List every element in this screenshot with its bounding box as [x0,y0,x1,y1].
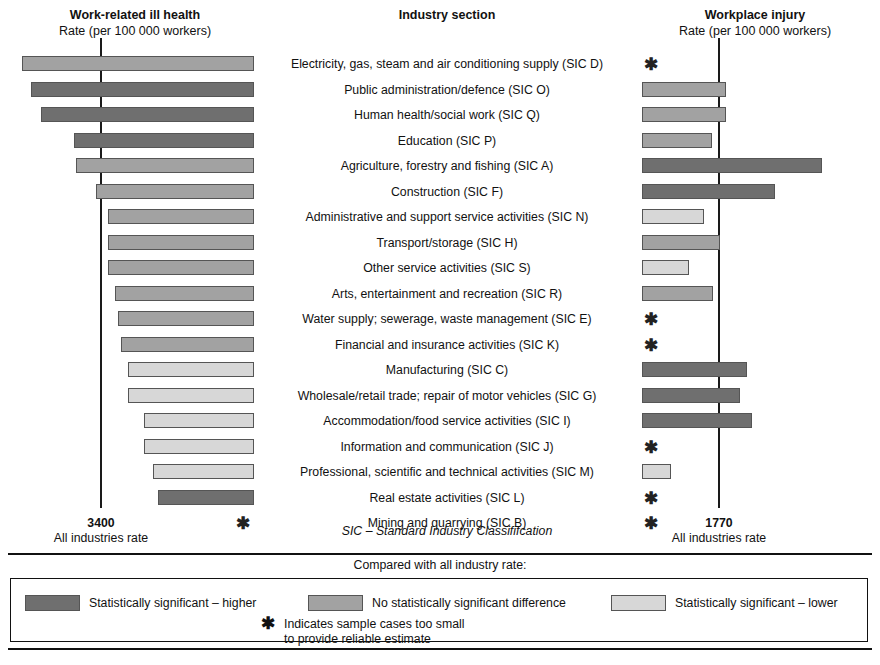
ill-health-cell [0,231,256,257]
industry-label: Water supply; sewerage, waste management… [262,309,632,329]
injury-bar [642,388,740,403]
chart-row: Financial and insurance activities (SIC … [0,333,880,359]
industry-label: Real estate activities (SIC L) [262,488,632,508]
injury-bar [642,158,822,173]
injury-cell [642,205,880,231]
legend-item-same: No statistically significant difference [308,595,566,611]
industry-label: Information and communication (SIC J) [262,437,632,457]
ill-health-bar [128,362,254,377]
bar-chart-body: Electricity, gas, steam and air conditio… [0,52,880,502]
ill-health-bar [158,490,254,505]
injury-bar [642,286,713,301]
chart-row: Wholesale/retail trade; repair of motor … [0,384,880,410]
ill-health-cell [0,129,256,155]
industry-label: Arts, entertainment and recreation (SIC … [262,284,632,304]
asterisk-icon: ✱ [644,311,658,328]
injury-bar [642,235,720,250]
legend-suppressed-line2: to provide reliable estimate [284,632,431,646]
injury-cell [642,384,880,410]
divider-bottom [8,648,872,650]
injury-bar [642,464,671,479]
asterisk-icon: ✱ [644,337,658,354]
industry-label: Transport/storage (SIC H) [262,233,632,253]
chart-row: Public administration/defence (SIC O) [0,78,880,104]
middle-column-title: Industry section [262,8,632,23]
left-column-title: Work-related ill health [10,8,260,23]
ill-health-bar [118,311,254,326]
ill-health-bar [96,184,254,199]
ill-health-bar [121,337,254,352]
chart-row: Electricity, gas, steam and air conditio… [0,52,880,78]
ill-health-bar [74,133,254,148]
legend-swatch-higher [25,595,80,611]
chart-row: Accommodation/food service activities (S… [0,409,880,435]
industry-label: Education (SIC P) [262,131,632,151]
industry-label: Accommodation/food service activities (S… [262,411,632,431]
right-reference-value: 1770 [648,516,790,531]
ill-health-bar [41,107,254,122]
chart-row: Other service activities (SIC S) [0,256,880,282]
industry-label: Electricity, gas, steam and air conditio… [262,54,632,74]
injury-cell: ✱ [642,486,880,512]
injury-bar [642,362,747,377]
right-reference-caption: All industries rate [648,531,790,546]
ill-health-cell [0,154,256,180]
legend-swatch-lower [611,595,666,611]
chart-row: Transport/storage (SIC H) [0,231,880,257]
sic-definition-note: SIC – Standard Industry Classififcation [262,524,632,539]
ill-health-cell [0,282,256,308]
ill-health-cell [0,180,256,206]
industry-label: Construction (SIC F) [262,182,632,202]
chart-row: Arts, entertainment and recreation (SIC … [0,282,880,308]
injury-bar [642,133,712,148]
legend-suppressed-line1: Indicates sample cases too small [284,617,464,631]
compare-note: Compared with all industry rate: [8,558,872,572]
injury-cell [642,231,880,257]
legend-label-lower: Statistically significant – lower [675,596,838,610]
right-column-title: Workplace injury [636,8,874,23]
ill-health-cell [0,409,256,435]
injury-bar [642,82,726,97]
legend-box: Statistically significant – higher No st… [10,578,868,642]
middle-column-header: Industry section [262,8,632,23]
legend-label-higher: Statistically significant – higher [89,596,256,610]
industry-label: Administrative and support service activ… [262,207,632,227]
chart-row: Information and communication (SIC J)✱ [0,435,880,461]
industry-label: Other service activities (SIC S) [262,258,632,278]
injury-bar [642,209,704,224]
industry-label: Human health/social work (SIC Q) [262,105,632,125]
right-column-header: Workplace injury Rate (per 100 000 worke… [636,8,874,39]
injury-cell [642,460,880,486]
asterisk-icon: ✱ [236,515,250,532]
injury-cell: ✱ [642,52,880,78]
injury-bar [642,184,775,199]
legend-label-same: No statistically significant difference [372,596,566,610]
ill-health-cell [0,435,256,461]
industry-label: Agriculture, forestry and fishing (SIC A… [262,156,632,176]
ill-health-bar [31,82,254,97]
chart-row: Agriculture, forestry and fishing (SIC A… [0,154,880,180]
industry-label: Professional, scientific and technical a… [262,462,632,482]
chart-row: Construction (SIC F) [0,180,880,206]
injury-bar [642,260,689,275]
ill-health-cell [0,78,256,104]
right-axis-footer: 1770 All industries rate [648,516,790,546]
left-column-subtitle: Rate (per 100 000 workers) [10,23,260,39]
ill-health-cell [0,460,256,486]
divider-top [8,553,872,555]
asterisk-icon: ✱ [644,490,658,507]
injury-cell [642,282,880,308]
ill-health-cell [0,333,256,359]
legend-item-lower: Statistically significant – lower [611,595,838,611]
ill-health-cell [0,205,256,231]
industry-label: Financial and insurance activities (SIC … [262,335,632,355]
injury-cell [642,358,880,384]
chart-row: Professional, scientific and technical a… [0,460,880,486]
industry-label: Manufacturing (SIC C) [262,360,632,380]
asterisk-icon: ✱ [261,617,275,631]
ill-health-bar [153,464,254,479]
ill-health-cell [0,307,256,333]
legend-swatch-same [308,595,363,611]
ill-health-bar [108,209,254,224]
injury-cell: ✱ [642,307,880,333]
